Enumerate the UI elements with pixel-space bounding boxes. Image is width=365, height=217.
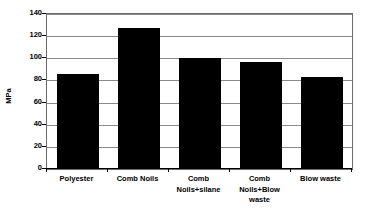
y-tick-label: 120 [14, 31, 42, 39]
bar [118, 28, 160, 169]
x-axis-label-line: Comb [168, 174, 229, 185]
x-axis-label-line: Polyester [46, 174, 107, 185]
x-axis-label: CombNoils+silane [168, 174, 229, 195]
y-tick-label: 80 [14, 75, 42, 83]
x-tick-mark [229, 168, 230, 172]
bar [179, 58, 221, 169]
plot-inner [47, 14, 352, 169]
y-tick-label: 0 [14, 164, 42, 172]
x-axis-tick-marks [46, 168, 352, 172]
x-axis-label: Blow waste [290, 174, 351, 185]
x-axis-label-line: Noils+silane [168, 185, 229, 196]
x-axis-label: Comb Noils [107, 174, 168, 185]
x-axis-category-labels: PolyesterComb NoilsCombNoils+silaneCombN… [46, 174, 351, 216]
x-axis-label-line: Blow waste [290, 174, 351, 185]
gridline [47, 14, 352, 15]
x-axis-label: CombNoils+Blowwaste [229, 174, 290, 206]
bar-chart: MPa 020406080100120140 PolyesterComb Noi… [0, 0, 365, 217]
x-axis-label-line: Noils+Blow [229, 185, 290, 196]
x-tick-mark [290, 168, 291, 172]
gridline [47, 36, 352, 37]
x-tick-mark [107, 168, 108, 172]
y-tick-label: 20 [14, 142, 42, 150]
y-tick-label: 60 [14, 98, 42, 106]
x-tick-mark [351, 168, 352, 172]
x-axis-label-line: waste [229, 195, 290, 206]
y-axis-tick-labels: 020406080100120140 [14, 13, 42, 168]
bar [240, 62, 282, 169]
x-tick-mark [168, 168, 169, 172]
x-axis-label-line: Comb [229, 174, 290, 185]
y-tick-label: 140 [14, 9, 42, 17]
y-tick-label: 40 [14, 120, 42, 128]
x-tick-mark [46, 168, 47, 172]
bar [57, 74, 99, 169]
y-tick-label: 100 [14, 53, 42, 61]
bar [301, 77, 343, 169]
x-axis-label: Polyester [46, 174, 107, 185]
x-axis-label-line: Comb Noils [107, 174, 168, 185]
plot-area [46, 13, 353, 170]
